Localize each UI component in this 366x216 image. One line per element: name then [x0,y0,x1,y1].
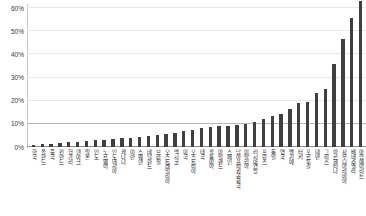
bar [85,141,88,147]
bar-slot [268,0,277,147]
bar [226,126,229,147]
x-axis-label: 스웨덴 [137,149,143,163]
x-label-slot: 스페인 [224,149,233,216]
bar [297,103,300,147]
x-axis-label: 이란 [128,149,134,159]
bar-slot [179,0,188,147]
bar [111,139,114,147]
bar [173,133,176,147]
x-axis-label: 인도네시아 [110,149,116,173]
bar [324,89,327,147]
x-axis-label: 태국 [199,149,205,159]
bar-slot [162,0,171,147]
x-axis-label: 헝가리 [66,149,72,163]
x-axis-label: 중국 [48,149,54,159]
bar [341,39,344,147]
x-label-slot: 오스트리아 [188,149,197,216]
x-axis-label: 오스트레일리아 [163,149,169,183]
x-axis-label: 인도 [93,149,99,159]
bar [253,122,256,147]
bar-slot [171,0,180,147]
y-tick-label: 40% [0,51,24,58]
x-axis-label: 이탈리아 [243,149,249,168]
bar-slot [126,0,135,147]
bar-slot [144,0,153,147]
x-label-slot: 벨기에 [285,149,294,216]
x-label-slot: 폴란드 [38,149,47,216]
bar-slot [100,0,109,147]
x-label-slot: 터키 [294,149,303,216]
bar-slot [312,0,321,147]
bar-slot [47,0,56,147]
bar-slot [188,0,197,147]
x-axis-label: 콜롬비아 [208,149,214,168]
x-label-slot: 이란 [126,149,135,216]
bar-slot [56,0,65,147]
bar-slot [277,0,286,147]
bar [129,138,132,147]
bar [76,142,79,147]
x-axis-label: 터키 [296,149,302,159]
bar-slot [250,0,259,147]
bar-slot [38,0,47,147]
x-axis-label: 아일랜드 [216,149,222,168]
x-axis-label: 캐나다 [119,149,125,163]
x-label-slot: 독일 [268,149,277,216]
bar-slot [206,0,215,147]
bar-series [27,0,366,147]
x-axis-label: 프랑스 [261,149,267,163]
plot-area [27,8,366,147]
bar [315,93,318,147]
bar [200,128,203,147]
bar-slot [91,0,100,147]
bar-slot [135,0,144,147]
bar [359,1,362,147]
bar-slot [356,0,365,147]
x-axis-label: 아랍에미리트 [358,149,364,178]
x-axis-label: 브라질 [154,149,160,163]
bar [191,130,194,147]
bar-slot [109,0,118,147]
x-axis-label: 미국 [181,149,187,159]
bar-slot [153,0,162,147]
bar-slot [215,0,224,147]
x-label-slot: 러시아연방 [250,149,259,216]
bar [41,144,44,147]
bar-slot [224,0,233,147]
x-axis-category-labels: 한국폴란드중국핀란드헝가리덴마크일본인도노르웨이인도네시아캐나다이란스웨덴네덜란… [27,149,366,216]
y-tick-label: 10% [0,120,24,127]
bar-slot [347,0,356,147]
x-label-slot: 콜롬비아 [206,149,215,216]
bar [271,116,274,147]
bar-chart: 0%10%20%30%40%50%60% 한국폴란드중국핀란드헝가리덴마크일본인… [0,0,366,216]
bar [279,114,282,147]
bar-slot [197,0,206,147]
bar-slot [117,0,126,147]
bar [332,64,335,147]
bar-slot [82,0,91,147]
x-label-slot: 프랑스 [259,149,268,216]
bar [67,142,70,147]
bar [147,136,150,147]
bar [235,125,238,147]
bar [138,137,141,147]
x-axis-label: 벨기에 [287,149,293,163]
x-axis-label: 노르웨이 [101,149,107,168]
x-label-slot: 포르투갈 [303,149,312,216]
bar [164,134,167,147]
x-label-slot: 태국 [197,149,206,216]
x-label-slot: 브라질 [153,149,162,216]
x-label-slot: 그리스 [321,149,330,216]
x-label-slot: 미국 [179,149,188,216]
x-axis-label: 대만 [314,149,320,159]
x-axis-label: 사우디아라비아 [340,149,346,183]
x-axis-label: 베네수엘라 [349,149,355,173]
bar [32,145,35,147]
y-tick-label: 50% [0,28,24,35]
bar [182,131,185,147]
y-tick-label: 20% [0,97,24,104]
bar [217,126,220,147]
x-axis-label: 핀란드 [57,149,63,163]
x-axis-label: 멕시코 [172,149,178,163]
bar [306,102,309,147]
